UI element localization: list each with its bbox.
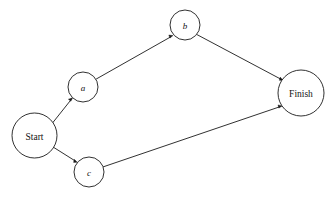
edge-start-a-arrowhead bbox=[68, 98, 72, 102]
node-finish-label: Finish bbox=[289, 89, 313, 99]
edge-c-finish-line bbox=[103, 107, 280, 167]
node-start[interactable]: Start bbox=[12, 113, 57, 158]
node-finish[interactable]: Finish bbox=[278, 70, 324, 116]
diagram-canvas: Start a b c Finish bbox=[0, 0, 331, 203]
edge-b-finish-line bbox=[197, 35, 281, 80]
activity-network-diagram: Start a b c Finish bbox=[0, 0, 331, 203]
node-layer: Start a b c Finish bbox=[12, 10, 324, 187]
edge-start-c[interactable] bbox=[54, 147, 78, 162]
node-b-label: b bbox=[183, 21, 188, 31]
node-a[interactable]: a bbox=[68, 72, 98, 102]
edge-start-c-line bbox=[54, 147, 76, 161]
node-c-label: c bbox=[87, 168, 91, 178]
node-a-label: a bbox=[81, 83, 86, 93]
edge-start-a-line bbox=[53, 99, 72, 123]
edge-start-a[interactable] bbox=[53, 98, 73, 123]
edge-a-b-line bbox=[96, 37, 171, 80]
edge-start-c-arrowhead bbox=[74, 159, 78, 162]
edge-a-b[interactable] bbox=[96, 35, 173, 79]
edge-c-finish[interactable] bbox=[103, 105, 282, 167]
node-b[interactable]: b bbox=[170, 10, 200, 40]
node-start-label: Start bbox=[26, 132, 44, 142]
edge-b-finish[interactable] bbox=[197, 35, 283, 81]
node-c[interactable]: c bbox=[74, 157, 104, 187]
